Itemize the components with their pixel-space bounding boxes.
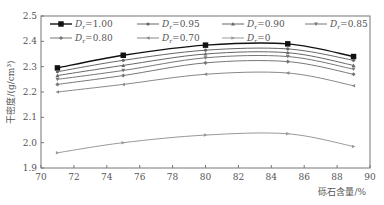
triangle-right-marker-icon [122,141,126,145]
y-tick-label: 2.1 [23,112,37,122]
circle-marker-icon [56,70,59,73]
x-tick-label: 84 [266,172,278,182]
square-marker-icon [285,41,290,46]
square-marker-icon [203,42,208,47]
x-tick-label: 76 [134,172,146,182]
y-tick-label: 2.2 [23,87,37,97]
legend-label: Dr=0.90 [246,19,285,30]
diamond-marker-icon [203,61,207,65]
triangle-left-marker-icon [56,90,60,94]
y-tick-label: 2.3 [23,62,38,72]
x-tick-label: 82 [233,172,244,182]
chart-canvas: 1.92.02.12.22.32.42.57072747678808284868… [0,0,384,205]
x-tick-label: 72 [68,172,79,182]
legend-label: Dr=1.00 [74,19,113,30]
diamond-marker-icon [286,60,290,64]
legend-label: Dr=0.85 [329,19,368,30]
x-tick-label: 70 [35,172,47,182]
x-tick-label: 80 [200,172,212,182]
x-tick-label: 78 [167,172,179,182]
circle-marker-icon [146,22,149,25]
y-axis-label: 干密度/(g/cm³) [5,60,16,123]
x-tick-label: 88 [331,172,343,182]
y-tick-label: 2.4 [23,36,38,46]
legend-label: Dr=0.70 [161,33,200,44]
triangle-right-marker-icon [56,151,60,155]
square-marker-icon [351,54,356,59]
circle-marker-icon [122,59,125,62]
diamond-marker-icon [55,82,59,86]
triangle-left-marker-icon [146,36,150,40]
x-tick-label: 90 [364,172,376,182]
diamond-marker-icon [59,36,63,40]
triangle-right-marker-icon [204,133,208,137]
diamond-marker-icon [351,72,355,76]
circle-marker-icon [286,47,289,50]
square-marker-icon [121,53,126,58]
square-marker-icon [55,65,60,70]
y-tick-label: 2.5 [23,11,38,21]
dry-density-chart: 1.92.02.12.22.32.42.57072747678808284868… [0,0,384,205]
x-axis-label: 砾石含量/% [318,186,366,197]
x-tick-label: 74 [101,172,113,182]
triangle-right-marker-icon [286,132,290,136]
legend-label: Dr=0.95 [161,19,200,30]
triangle-right-marker-icon [231,36,235,40]
square-marker-icon [58,21,63,26]
triangle-left-marker-icon [352,84,356,88]
x-tick-label: 86 [298,172,310,182]
diamond-marker-icon [121,73,125,77]
y-tick-label: 2.0 [23,138,38,148]
legend-label: Dr=0.80 [74,33,113,44]
triangle-left-marker-icon [204,73,208,77]
legend-label: Dr=0 [246,33,271,44]
circle-marker-icon [204,49,207,52]
triangle-right-marker-icon [352,145,356,149]
triangle-left-marker-icon [286,71,290,75]
circle-marker-icon [352,59,355,62]
triangle-left-marker-icon [121,83,125,87]
